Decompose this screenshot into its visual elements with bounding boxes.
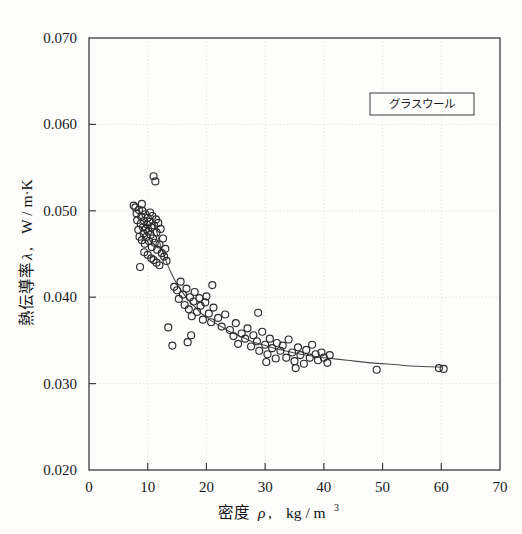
x-tick-label: 40	[316, 479, 331, 495]
data-point-marker	[264, 351, 271, 358]
figure-container: 0102030405060700.0200.0300.0400.0500.060…	[0, 0, 522, 534]
data-point-marker	[177, 278, 184, 285]
fitted-curve-path	[154, 219, 442, 367]
y-tick-label: 0.040	[43, 289, 77, 305]
data-point-marker	[137, 263, 144, 270]
data-point-marker	[197, 302, 204, 309]
data-point-marker	[255, 309, 262, 316]
data-point-marker	[272, 355, 279, 362]
data-point-marker	[215, 314, 222, 321]
data-point-marker	[159, 235, 166, 242]
x-axis-title-exponent: 3	[334, 502, 339, 513]
data-point-marker	[175, 295, 182, 302]
data-point-marker	[235, 340, 242, 347]
x-axis-title-comma: ,	[268, 504, 272, 521]
data-point-marker	[138, 200, 145, 207]
data-point-marker	[209, 282, 216, 289]
y-axis-title-unit: W / m·K	[18, 178, 35, 234]
y-tick-label: 0.030	[43, 376, 77, 392]
data-point-marker	[259, 328, 266, 335]
x-tick-label: 0	[85, 479, 93, 495]
data-point-marker	[169, 342, 176, 349]
data-point-marker	[244, 325, 251, 332]
data-point-marker	[222, 311, 229, 318]
data-point-marker	[373, 366, 380, 373]
x-tick-label: 10	[140, 479, 155, 495]
legend-label: グラスウール	[389, 97, 455, 111]
y-axis-title-comma: ,	[18, 247, 35, 251]
data-point-marker	[309, 341, 316, 348]
data-point-marker	[326, 352, 333, 359]
x-axis-title-main: 密度	[218, 504, 250, 521]
data-point-marker	[256, 347, 263, 354]
data-point-marker	[210, 304, 217, 311]
data-point-marker	[324, 359, 331, 366]
x-tick-label: 30	[258, 479, 273, 495]
x-tick-label: 20	[199, 479, 214, 495]
data-point-marker	[183, 285, 190, 292]
y-tick-label: 0.070	[43, 30, 77, 46]
x-tick-label: 50	[375, 479, 390, 495]
data-point-marker	[303, 346, 310, 353]
x-tick-label: 70	[493, 479, 508, 495]
data-point-marker	[291, 358, 298, 365]
data-point-marker	[292, 365, 299, 372]
x-axis-title-symbol: ρ	[257, 504, 265, 521]
y-tick-label: 0.060	[43, 116, 77, 132]
data-point-marker	[263, 359, 270, 366]
y-axis-title-main: 熱伝導率	[18, 262, 35, 326]
data-point-marker	[165, 324, 172, 331]
scatter-chart: 0102030405060700.0200.0300.0400.0500.060…	[0, 0, 522, 534]
data-point-marker	[285, 336, 292, 343]
data-point-marker	[295, 344, 302, 351]
data-point-marker	[266, 335, 273, 342]
data-point-marker	[191, 289, 198, 296]
data-point-marker	[181, 301, 188, 308]
x-axis-title-unit: kg / m	[286, 504, 326, 521]
data-point-marker	[205, 310, 212, 317]
data-point-marker	[199, 316, 206, 323]
x-axis-title: 密度 ρ , kg / m 3	[218, 502, 339, 521]
data-point-marker	[232, 320, 239, 327]
data-points	[130, 173, 447, 374]
data-point-marker	[248, 343, 255, 350]
y-tick-label: 0.020	[43, 462, 77, 478]
data-point-marker	[440, 365, 447, 372]
x-tick-label: 60	[434, 479, 449, 495]
data-point-marker	[185, 306, 192, 313]
y-axis-title-symbol: λ	[18, 253, 35, 261]
fitted-curve	[154, 219, 442, 367]
legend-box: グラスウール	[370, 93, 474, 115]
y-tick-label: 0.050	[43, 203, 77, 219]
y-axis-title: 熱伝導率 λ , W / m·K	[18, 178, 35, 326]
data-point-marker	[184, 339, 191, 346]
data-point-marker	[283, 354, 290, 361]
data-point-marker	[188, 332, 195, 339]
data-point-marker	[300, 360, 307, 367]
